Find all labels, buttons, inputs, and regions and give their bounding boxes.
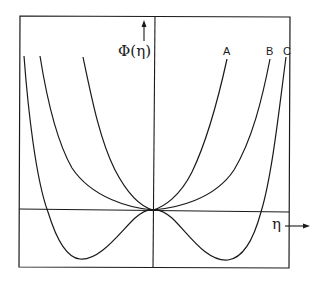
curve-c bbox=[24, 56, 286, 260]
curve-a-label: A bbox=[223, 46, 230, 57]
y-axis-label: Φ(η) bbox=[118, 44, 151, 59]
x-axis-arrow-icon bbox=[303, 224, 310, 229]
curve-b-label: B bbox=[266, 46, 273, 57]
potential-diagram: Φ(η) η A B C bbox=[0, 0, 323, 286]
y-axis-arrow-icon bbox=[142, 20, 147, 27]
y-axis bbox=[153, 16, 155, 268]
curve-c-label: C bbox=[283, 46, 291, 57]
diagram-canvas bbox=[0, 0, 323, 286]
x-axis-label: η bbox=[272, 217, 281, 232]
